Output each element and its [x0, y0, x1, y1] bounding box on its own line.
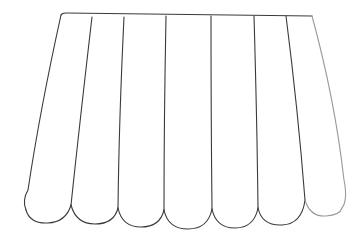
awning-drawing — [0, 0, 359, 237]
stripe-divider-6 — [286, 16, 305, 200]
stripe-divider-3 — [164, 16, 166, 210]
scallop-5 — [212, 208, 258, 228]
scallop-7 — [305, 200, 342, 216]
awning-right-edge — [312, 16, 346, 208]
scallop-6 — [258, 200, 305, 225]
scallop-2 — [71, 205, 118, 224]
stripe-divider-2 — [118, 17, 124, 208]
scallop-1 — [26, 205, 71, 223]
stripe-divider-5 — [254, 16, 258, 208]
awning-top-edge — [61, 13, 312, 16]
stripe-divider-4 — [211, 16, 212, 209]
scallop-3 — [118, 208, 164, 227]
awning-icon — [0, 0, 359, 237]
scallop-4 — [164, 209, 212, 229]
awning-left-edge — [24, 15, 61, 210]
stripe-divider-1 — [71, 17, 92, 205]
